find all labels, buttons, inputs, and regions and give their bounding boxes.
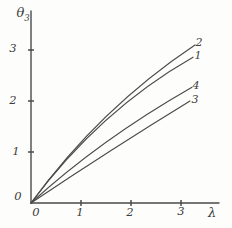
curve-label-3: 3 bbox=[192, 93, 199, 104]
curve-label-2: 2 bbox=[196, 36, 203, 47]
curve-2 bbox=[31, 45, 195, 203]
curve-label-1: 1 bbox=[195, 50, 202, 61]
x-axis-label: λ bbox=[208, 206, 216, 219]
x-tick-label: 1 bbox=[76, 207, 83, 219]
x-tick-label: 0 bbox=[32, 207, 39, 219]
plot-svg bbox=[0, 0, 232, 228]
y-axis-label: θ3 bbox=[16, 6, 29, 22]
figure: θ3 λ 012301231234 bbox=[0, 0, 232, 228]
y-axis-label-subscript: 3 bbox=[24, 13, 29, 23]
y-tick-label: 3 bbox=[9, 43, 16, 55]
y-tick-label: 2 bbox=[9, 95, 16, 107]
curve-label-4: 4 bbox=[193, 80, 200, 91]
x-tick-label: 2 bbox=[126, 207, 133, 219]
y-tick-label: 1 bbox=[12, 146, 19, 158]
curve-4 bbox=[31, 87, 192, 203]
y-tick-label: 0 bbox=[14, 191, 21, 203]
x-tick-label: 3 bbox=[177, 206, 184, 218]
y-axis-label-base: θ bbox=[16, 5, 24, 20]
